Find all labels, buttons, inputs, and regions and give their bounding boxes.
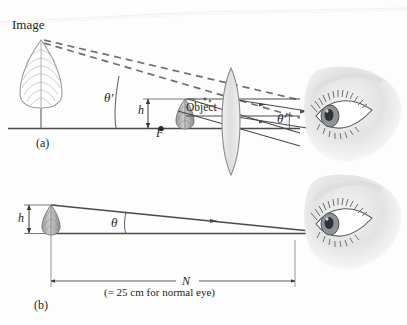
figure-canvas: Image θ′ h F Object θ′ (a) h θ N (= 25 c… [0,0,407,325]
object-label: Object [186,102,217,114]
theta-prime-left-arc [115,76,119,128]
eye [304,175,401,270]
converging-lens [222,68,240,175]
theta-label: θ [111,216,117,229]
ray-arrowhead-b [210,219,218,223]
ray-upper-b [51,205,310,231]
panel-b-caption: (b) [34,299,48,311]
virtual-ray-dashed-upper [44,40,300,100]
object-leaf [42,205,60,235]
scan-artifact [0,8,407,24]
virtual-ray-dashed-lower [44,43,300,118]
near-point-note: (= 25 cm for normal eye) [104,287,215,298]
theta-prime-right-label: θ′ [277,112,286,125]
image-label: Image [12,18,44,31]
virtual-image-leaf [20,40,62,108]
theta-prime-left-label: θ′ [104,91,113,104]
theta-arc [125,212,127,234]
theta-prime-right-arc [289,112,290,131]
eye [304,67,401,162]
diagram-vector-layer [0,0,407,325]
panel-b-group [24,175,401,287]
panel-a-caption: (a) [36,137,49,149]
focal-point-label: F [156,127,163,139]
object-height-label-a: h [138,104,144,116]
object-height-label-b: h [18,212,24,224]
